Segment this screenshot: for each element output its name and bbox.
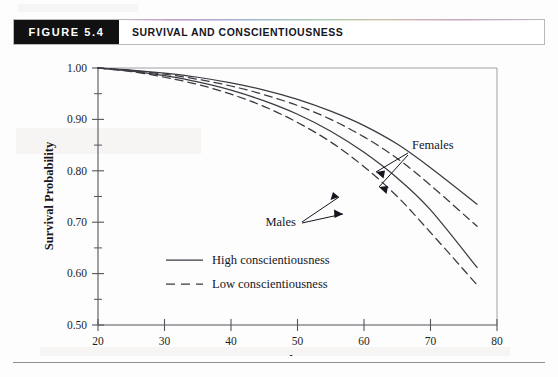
chart-plot-region: 1.00 0.90 0.80 0.70 0.60 0.50 Survival P… [0,46,558,356]
x-tick-label: 20 [92,335,104,347]
arrowhead-males-lower [334,210,343,219]
y-tick-label: 0.60 [67,267,87,279]
bottom-divider-rule [13,362,545,363]
annotation-males: Males [265,192,343,229]
x-axis-title: Age [287,352,308,356]
survival-probability-line-chart: 1.00 0.90 0.80 0.70 0.60 0.50 Survival P… [0,46,558,356]
x-tick-label: 80 [491,335,503,347]
chart-legend: High conscientiousness Low conscientious… [166,253,330,291]
y-tick-label: 0.80 [67,165,87,177]
x-tick-label: 50 [292,335,304,347]
x-tick-label: 70 [425,335,437,347]
curve-males-high-conscientiousness [98,68,477,267]
paper-smudge-top-left [18,4,138,12]
legend-label-high: High conscientiousness [212,253,330,267]
curve-females-high-conscientiousness [98,68,477,204]
y-tick-label: 0.70 [67,216,87,228]
annotation-label-males: Males [265,215,296,229]
x-tick-label: 30 [159,335,171,347]
x-tick-label: 60 [358,335,370,347]
figure-header: FIGURE 5.4 SURVIVAL AND CONSCIENTIOUSNES… [13,19,545,45]
arrowhead-females-lower [379,186,388,194]
figure-title: SURVIVAL AND CONSCIENTIOUSNESS [119,20,544,44]
legend-label-low: Low conscientiousness [212,277,328,291]
figure-number-tag: FIGURE 5.4 [14,20,119,44]
arrowhead-males-upper [331,192,340,200]
x-tick-label: 40 [225,335,237,347]
y-axis-tick-labels: 1.00 0.90 0.80 0.70 0.60 0.50 [67,62,87,331]
y-tick-label: 0.50 [67,319,87,331]
y-tick-label: 0.90 [67,113,87,125]
y-tick-label: 1.00 [67,62,87,74]
y-axis-title: Survival Probability [42,141,56,250]
x-axis-tick-labels: 20 30 40 50 60 70 80 [92,335,503,347]
annotation-females: Females [376,138,454,194]
annotation-label-females: Females [412,138,454,152]
